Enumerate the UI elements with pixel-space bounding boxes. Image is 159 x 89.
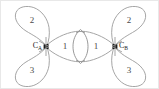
lobe-a-top-number: 2 — [30, 15, 35, 25]
lobe-a-bottom-number: 3 — [30, 65, 35, 75]
atom-b-label: CB — [119, 41, 128, 50]
lobe-b-bond-number: 1 — [94, 41, 99, 51]
orbital-diagram-figure: CA CB 2 3 1 2 3 1 — [0, 0, 159, 89]
lobe-a-bond-number: 1 — [63, 41, 68, 51]
atom-b-subscript: B — [124, 44, 128, 50]
sigma-overlap-lens — [73, 30, 88, 64]
atom-a-subscript: A — [38, 44, 42, 50]
lobe-b-top-number: 2 — [127, 15, 132, 25]
orbital-diagram-canvas: CA CB 2 3 1 2 3 1 — [1, 1, 159, 89]
lobe-b-top-outline — [112, 6, 146, 46]
lobe-b-bottom-number: 3 — [127, 65, 132, 75]
atom-a-label: CA — [33, 41, 42, 50]
lobe-a-top-outline — [15, 6, 49, 46]
